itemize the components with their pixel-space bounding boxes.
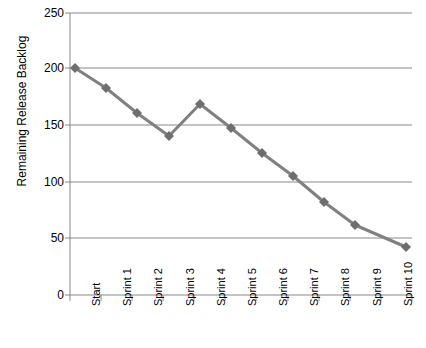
x-tick-label: Sprint 1 [121, 268, 133, 306]
x-tick-label: Sprint 2 [152, 268, 164, 306]
line-chart: Remaining Release Backlog 250 200 150 10… [0, 0, 426, 348]
x-tick-label: Sprint 10 [402, 262, 414, 306]
x-axis-tick-labels: Start Sprint 1 Sprint 2 Sprint 3 Sprint … [0, 0, 426, 348]
x-tick-label: Sprint 6 [277, 268, 289, 306]
x-tick-label: Sprint 8 [339, 268, 351, 306]
x-tick-label: Sprint 9 [371, 268, 383, 306]
x-tick-label: Sprint 4 [215, 268, 227, 306]
x-tick-label: Sprint 3 [184, 268, 196, 306]
x-tick-label: Sprint 5 [246, 268, 258, 306]
x-tick-label: Sprint 7 [308, 268, 320, 306]
x-tick-label: Start [90, 283, 102, 306]
